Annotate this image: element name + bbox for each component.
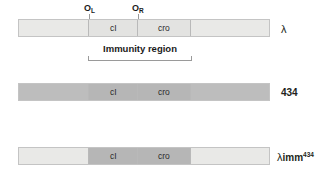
immunity-region-rule <box>88 60 192 61</box>
immunity-region-left-cap <box>88 56 89 61</box>
immunity-region-right-cap <box>191 56 192 61</box>
genome-bar-lambda: cI cro <box>18 19 270 37</box>
operator-label-or: OR <box>132 4 144 13</box>
strain-label-lambda-imm434: λimm434 <box>277 152 314 163</box>
segment-cro-lambda-imm434: cro <box>137 148 190 164</box>
segment-left-arm-lambda-imm434 <box>19 148 88 164</box>
strain-label-lambda: λ <box>281 24 287 35</box>
segment-ci-lambda-imm434: cI <box>88 148 137 164</box>
segment-cro-lambda: cro <box>137 20 190 36</box>
segment-right-arm-434 <box>190 84 269 100</box>
strain-label-434: 434 <box>281 88 298 98</box>
genome-bar-434: cI cro <box>18 83 270 101</box>
genome-bar-lambda-imm434: cI cro <box>18 147 270 165</box>
segment-ci-434: cI <box>88 84 137 100</box>
segment-left-arm-lambda <box>19 20 88 36</box>
segment-right-arm-lambda <box>190 20 269 36</box>
segment-ci-lambda: cI <box>88 20 137 36</box>
segment-left-arm-434 <box>19 84 88 100</box>
immunity-region-caption: Immunity region <box>88 44 192 54</box>
segment-cro-434: cro <box>137 84 190 100</box>
operator-label-ol: OL <box>84 4 95 13</box>
segment-right-arm-lambda-imm434 <box>190 148 269 164</box>
phage-immunity-region-diagram: OL OR cI cro λ Immunity region cI cro 43… <box>0 0 317 189</box>
